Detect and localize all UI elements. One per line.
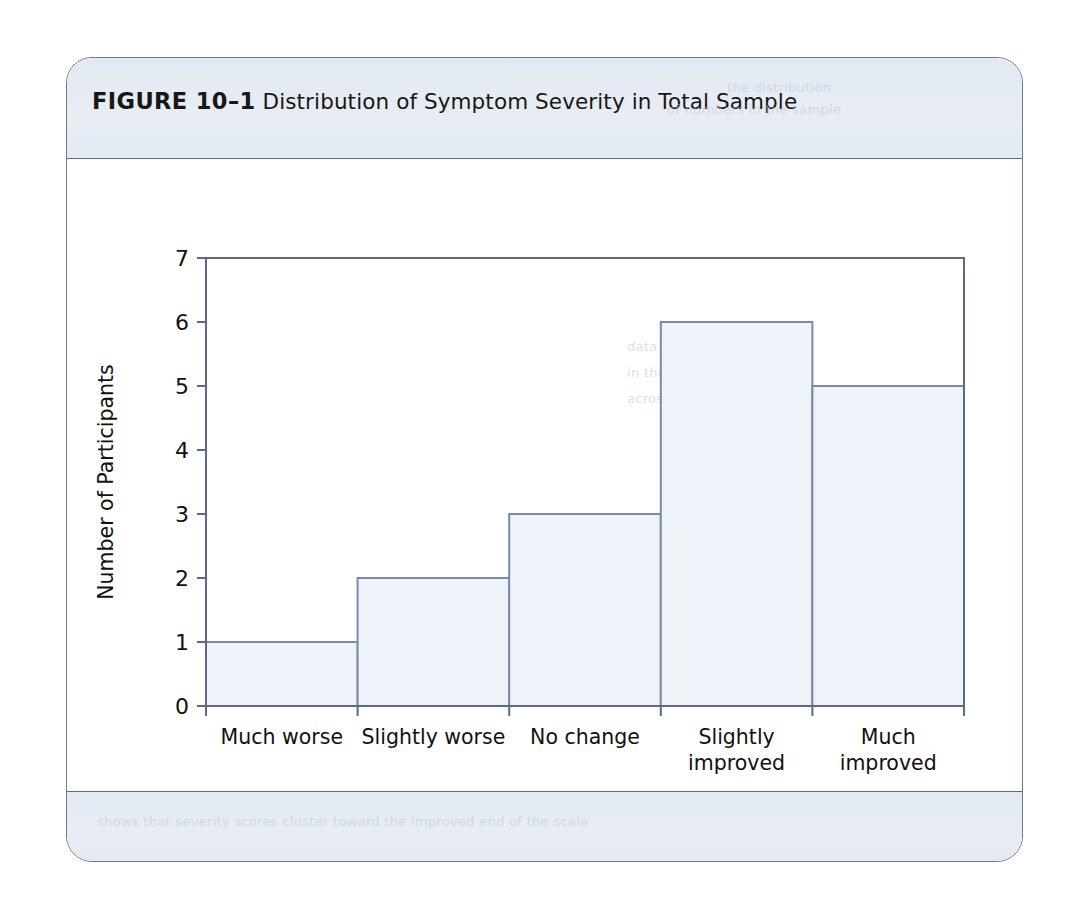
y-tick-label: 1 [175, 630, 189, 655]
y-tick-label: 6 [175, 310, 189, 335]
figure-card: FIGURE 10–1 Distribution of Symptom Seve… [66, 57, 1023, 862]
x-category-label: Slightly worse [361, 725, 505, 749]
x-category-label: improved [688, 751, 785, 775]
y-tick-label: 2 [175, 566, 189, 591]
bar-chart-svg: 01234567 Much worseSlightly worseNo chan… [67, 159, 1023, 793]
x-category-label: No change [530, 725, 640, 749]
chart-plot-area: data set and the values in the sample ar… [67, 159, 1022, 793]
figure-caption: FIGURE 10–1 Distribution of Symptom Seve… [92, 88, 797, 114]
bar [812, 386, 964, 706]
bar [509, 514, 661, 706]
bar [661, 322, 813, 706]
y-tick-label: 7 [175, 246, 189, 271]
y-tick-label: 3 [175, 502, 189, 527]
y-tick-label: 5 [175, 374, 189, 399]
y-tick-labels: 01234567 [175, 246, 189, 719]
x-category-label: Slightly [698, 725, 774, 749]
bar [358, 578, 510, 706]
footer-band: shows that severity scores cluster towar… [67, 791, 1022, 861]
bars-group [206, 322, 964, 706]
ghost-text-footer: shows that severity scores cluster towar… [97, 814, 588, 829]
bar [206, 642, 358, 706]
caption-band: FIGURE 10–1 Distribution of Symptom Seve… [67, 58, 1022, 159]
figure-title: Distribution of Symptom Severity in Tota… [263, 89, 798, 114]
y-tick-label: 0 [175, 694, 189, 719]
y-tick-label: 4 [175, 438, 189, 463]
figure-number: FIGURE 10–1 [92, 88, 256, 114]
x-category-labels: Much worseSlightly worseNo changeSlightl… [221, 725, 937, 775]
x-category-label: Much worse [221, 725, 344, 749]
x-category-label: Much [861, 725, 916, 749]
y-axis-title: Number of Participants [94, 364, 118, 600]
x-category-label: improved [840, 751, 937, 775]
